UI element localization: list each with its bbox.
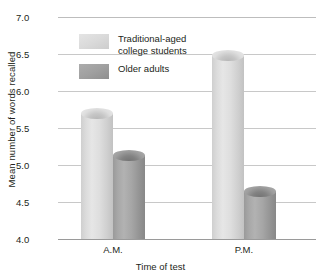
legend-swatch-traditional	[79, 34, 109, 49]
legend-label-older: Older adults	[118, 63, 169, 75]
gridline	[58, 91, 316, 92]
x-axis-title: Time of test	[0, 261, 321, 272]
y-axis-tick-label: 4.5	[16, 197, 56, 208]
x-axis-tick-label: P.M.	[235, 244, 253, 255]
y-axis-tick-label: 6.5	[16, 49, 56, 60]
legend-swatch-older	[79, 64, 109, 79]
bar-body	[244, 191, 276, 239]
legend-item-traditional: Traditional-aged college students	[79, 33, 187, 56]
bar-body	[212, 55, 244, 239]
y-axis-tick-label: 5.0	[16, 160, 56, 171]
chart-legend: Traditional-aged college students Older …	[79, 33, 187, 86]
bar-pm-series2	[244, 186, 276, 239]
y-axis-tick-label: 4.0	[16, 234, 56, 245]
y-axis-tick-label: 7.0	[16, 12, 56, 23]
bar-pm-series1	[212, 50, 244, 239]
y-axis-tick-label: 5.5	[16, 123, 56, 134]
x-axis-tick-label: A.M.	[103, 244, 123, 255]
bar-cap	[81, 108, 113, 119]
bar-body	[81, 113, 113, 239]
legend-label-traditional: Traditional-aged college students	[118, 33, 187, 56]
gridline	[58, 17, 316, 18]
bar-cap	[244, 186, 276, 197]
legend-item-older: Older adults	[79, 63, 187, 79]
x-axis-line	[58, 239, 316, 240]
y-axis-tick-label: 6.0	[16, 86, 56, 97]
bar-body	[113, 155, 145, 239]
bar-am-series1	[81, 108, 113, 239]
bar-am-series2	[113, 150, 145, 239]
bar-chart-figure: Mean number of words recalled Traditiona…	[0, 0, 321, 279]
